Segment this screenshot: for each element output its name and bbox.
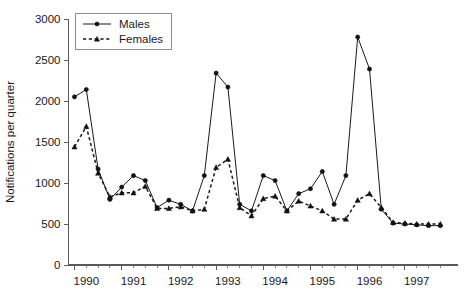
data-point-females (249, 213, 254, 218)
x-axis-tick-marks (75, 265, 441, 270)
data-point-males (131, 174, 135, 178)
data-point-males (143, 178, 147, 182)
y-axis-tick-marks (64, 19, 69, 265)
x-tick-label: 1995 (310, 275, 336, 287)
x-tick-label: 1993 (215, 275, 241, 287)
series-males (72, 35, 442, 228)
data-point-females (202, 207, 207, 212)
legend-swatch-marker-males (95, 22, 99, 26)
data-point-females (308, 203, 313, 208)
series-line-females (75, 126, 441, 224)
x-axis-tick-labels: 19901991199219931994199519961997 (74, 275, 430, 287)
data-point-males (167, 198, 171, 202)
data-point-males (261, 174, 265, 178)
x-tick-label: 1994 (262, 275, 288, 287)
data-point-males (84, 87, 88, 91)
data-series-layer (72, 35, 443, 228)
data-point-males (344, 174, 348, 178)
x-tick-label: 1991 (121, 275, 147, 287)
y-tick-label: 0 (54, 259, 60, 271)
y-tick-label: 3000 (35, 13, 61, 25)
x-tick-label: 1992 (168, 275, 194, 287)
data-point-males (332, 202, 336, 206)
data-point-males (120, 185, 124, 189)
data-point-males (202, 174, 206, 178)
y-tick-label: 500 (41, 218, 60, 230)
data-point-males (226, 85, 230, 89)
data-point-females (225, 157, 230, 162)
data-point-females (367, 191, 372, 196)
data-point-males (356, 35, 360, 39)
series-line-males (75, 37, 441, 226)
legend-label: Males (119, 18, 150, 30)
data-point-males (214, 71, 218, 75)
series-females (72, 124, 443, 226)
y-axis-tick-labels: 050010001500200025003000 (35, 13, 61, 271)
data-point-females (296, 198, 301, 203)
data-point-females (320, 208, 325, 213)
x-tick-label: 1997 (404, 275, 430, 287)
y-tick-label: 1500 (35, 136, 61, 148)
y-tick-label: 2500 (35, 54, 61, 66)
legend-label: Females (119, 33, 163, 45)
chart-legend: MalesFemales (75, 13, 171, 49)
x-tick-label: 1996 (357, 275, 383, 287)
data-point-females (84, 124, 89, 129)
data-point-males (72, 95, 76, 99)
data-point-males (297, 192, 301, 196)
data-point-males (308, 187, 312, 191)
data-point-males (320, 169, 324, 173)
chart-figure: 050010001500200025003000 199019911992199… (0, 0, 465, 295)
line-chart-canvas: 050010001500200025003000 199019911992199… (0, 0, 465, 295)
data-point-females (355, 198, 360, 203)
x-tick-label: 1990 (74, 275, 100, 287)
data-point-males (273, 178, 277, 182)
data-point-males (367, 67, 371, 71)
data-point-males (249, 209, 253, 213)
y-tick-label: 1000 (35, 177, 61, 189)
y-tick-label: 2000 (35, 95, 61, 107)
y-axis-title: Notifications per quarter (4, 81, 16, 203)
